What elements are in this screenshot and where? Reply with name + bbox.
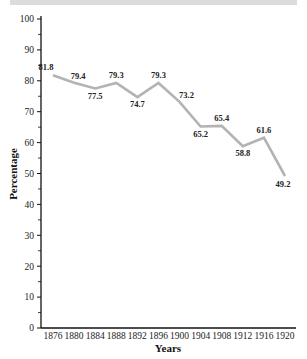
y-tick-label: 60 — [25, 138, 35, 148]
data-label: 61.6 — [256, 125, 271, 135]
x-tick-label: 1896 — [149, 331, 168, 341]
x-axis-title: Years — [155, 342, 182, 354]
data-label: 79.4 — [71, 71, 87, 81]
y-tick-label: 70 — [25, 107, 35, 117]
x-axis: 1876188018841888189218961900190419081912… — [41, 328, 296, 341]
data-label: 65.4 — [214, 113, 230, 123]
y-tick-label: 10 — [25, 292, 35, 302]
x-tick-label: 1880 — [65, 331, 84, 341]
y-axis-title: Percentage — [7, 148, 19, 200]
data-label: 79.3 — [109, 70, 124, 80]
x-tick-label: 1908 — [212, 331, 231, 341]
y-tick-label: 40 — [25, 200, 35, 210]
y-tick-label: 20 — [25, 262, 35, 272]
data-label: 79.3 — [151, 70, 166, 80]
data-labels: 81.879.477.579.374.779.373.265.265.458.8… — [39, 62, 291, 189]
data-label: 81.8 — [39, 62, 54, 72]
y-tick-label: 90 — [25, 45, 35, 55]
x-tick-label: 1904 — [191, 331, 210, 341]
x-tick-label: 1884 — [86, 331, 105, 341]
y-tick-label: 50 — [25, 169, 35, 179]
y-tick-label: 80 — [25, 76, 35, 86]
data-label: 49.2 — [276, 179, 291, 189]
line-chart: 0102030405060708090100 18761880188418881… — [0, 0, 307, 359]
x-tick-label: 1920 — [276, 331, 295, 341]
data-label: 65.2 — [193, 129, 208, 139]
data-label: 77.5 — [88, 91, 103, 101]
x-tick-label: 1912 — [233, 331, 252, 341]
y-tick-label: 30 — [25, 231, 35, 241]
x-tick-label: 1900 — [170, 331, 189, 341]
y-tick-label: 0 — [29, 323, 34, 333]
x-tick-label: 1892 — [128, 331, 147, 341]
y-tick-label: 100 — [20, 14, 35, 24]
data-label: 73.2 — [179, 90, 194, 100]
x-tick-label: 1916 — [254, 331, 273, 341]
data-label: 74.7 — [130, 99, 146, 109]
x-tick-label: 1888 — [107, 331, 126, 341]
data-label: 58.8 — [235, 148, 250, 158]
x-tick-label: 1876 — [44, 331, 63, 341]
